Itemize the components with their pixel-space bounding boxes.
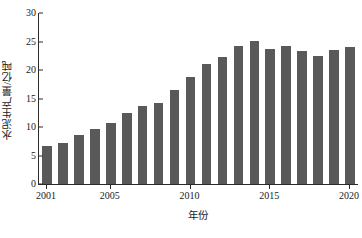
y-axis-tick-label: 5 <box>31 151 36 161</box>
x-axis-tick-label: 2020 <box>339 191 359 201</box>
y-axis-tick-label: 15 <box>26 94 36 104</box>
y-axis-tick-label: 30 <box>26 8 36 18</box>
bar <box>90 129 100 184</box>
y-axis-tick-label: 20 <box>26 65 36 75</box>
bar <box>138 106 148 184</box>
bar <box>42 146 52 184</box>
x-axis-tick-mark <box>46 185 47 189</box>
bar <box>281 46 291 184</box>
bar <box>106 123 116 184</box>
bar <box>154 103 164 185</box>
y-axis-tick-mark <box>39 127 43 128</box>
y-axis-tick-label: 0 <box>31 179 36 189</box>
bar <box>345 47 355 184</box>
x-axis-tick-mark <box>110 185 111 189</box>
bar <box>329 50 339 184</box>
bar <box>202 64 212 184</box>
bar <box>58 143 68 184</box>
x-axis-tick-label: 2005 <box>100 191 120 201</box>
bar <box>218 57 228 184</box>
bar <box>122 113 132 184</box>
x-axis-tick-mark <box>269 185 270 189</box>
y-axis-tick-mark <box>39 41 43 42</box>
bar <box>313 56 323 184</box>
x-axis-tick-mark <box>190 185 191 189</box>
y-axis-tick-mark <box>39 13 43 14</box>
plot-area <box>38 13 358 185</box>
y-axis-tick-mark <box>39 155 43 156</box>
y-axis-tick-label: 25 <box>26 37 36 47</box>
bar <box>234 46 244 185</box>
bar-series <box>39 13 358 184</box>
x-axis-tick-label: 2015 <box>259 191 279 201</box>
y-axis-tick-label: 10 <box>26 122 36 132</box>
bar <box>170 90 180 184</box>
bar <box>186 77 196 184</box>
bar <box>265 49 275 184</box>
x-axis-tick-label: 2010 <box>180 191 200 201</box>
x-axis-tick-mark <box>349 185 350 189</box>
bar <box>297 51 307 184</box>
bar <box>250 41 260 184</box>
x-axis-title: 年份 <box>38 211 358 222</box>
bar <box>74 135 84 184</box>
x-axis-tick-label: 2001 <box>36 191 56 201</box>
y-axis-tick-mark <box>39 70 43 71</box>
cement-production-bar-chart: 水泥生产量/亿吨 051015202530 200120052010201520… <box>0 0 362 238</box>
y-axis-tick-mark <box>39 98 43 99</box>
x-axis-tick-labels: 20012005201020152020 <box>38 191 358 207</box>
y-axis-tick-labels: 051015202530 <box>10 0 36 238</box>
